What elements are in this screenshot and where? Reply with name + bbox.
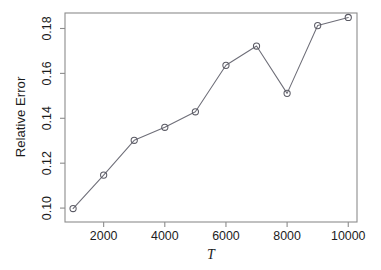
- relative-error-line-chart: 0.100.120.140.160.18 2000400060008000100…: [0, 0, 381, 270]
- y-tick-label-2: 0.14: [40, 106, 54, 130]
- x-tick-label-3: 8000: [273, 229, 301, 243]
- x-tick-label-0: 2000: [90, 229, 118, 243]
- x-tick-label-2: 6000: [212, 229, 240, 243]
- chart-background: [0, 0, 381, 270]
- y-tick-label-0: 0.10: [40, 196, 54, 220]
- x-axis-title: T: [207, 247, 216, 262]
- y-tick-label-3: 0.16: [40, 61, 54, 85]
- chart-figure: 0.100.120.140.160.18 2000400060008000100…: [0, 0, 381, 270]
- y-tick-label-4: 0.18: [40, 16, 54, 40]
- x-tick-label-1: 4000: [151, 229, 179, 243]
- x-tick-label-4: 10000: [331, 229, 366, 243]
- y-axis-title: Relative Error: [13, 76, 28, 157]
- y-tick-label-1: 0.12: [40, 151, 54, 175]
